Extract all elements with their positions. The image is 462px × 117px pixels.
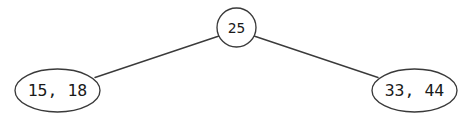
root-node-label: 25 — [228, 20, 245, 36]
node-root[interactable]: 25 — [217, 8, 256, 47]
node-right-leaf[interactable]: 33, 44 — [372, 69, 457, 112]
left-leaf-node-label: 15, 18 — [28, 81, 88, 100]
edge-root-to-right-child — [254, 36, 378, 78]
node-left-leaf[interactable]: 15, 18 — [15, 69, 100, 112]
right-leaf-node-label: 33, 44 — [385, 81, 445, 100]
tree-diagram-svg: 25 15, 18 33, 44 — [0, 0, 462, 117]
edge-root-to-left-child — [95, 36, 219, 78]
tree-diagram-canvas: 25 15, 18 33, 44 — [0, 0, 462, 117]
